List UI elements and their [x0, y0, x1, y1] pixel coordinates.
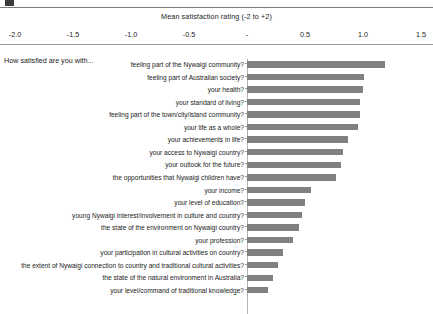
bar — [247, 174, 336, 180]
category-label: young Nywaigi interest/involvement in cu… — [72, 211, 244, 220]
chart-row: feeling part of the Nywaigi community? — [0, 59, 433, 71]
chart-row: your level of education? — [0, 197, 433, 209]
category-label: your level of education? — [174, 198, 244, 207]
bar — [247, 187, 311, 193]
chart-row: your life as a whole? — [0, 122, 433, 134]
bar — [247, 99, 360, 105]
chart-row: your standard of living? — [0, 97, 433, 109]
plot-area: feeling part of the Nywaigi community?fe… — [0, 45, 433, 314]
x-tick-label: -2.0 — [9, 30, 21, 39]
x-tick-label: - — [246, 30, 248, 39]
chart-row: the state of the natural environment in … — [0, 272, 433, 284]
bar — [247, 74, 364, 80]
page-corner-artifact — [5, 0, 14, 6]
chart-row: the opportunities that Nywaigi children … — [0, 172, 433, 184]
chart-row: your level/command of traditional knowle… — [0, 285, 433, 297]
category-label: your access to Nywaigi country? — [149, 148, 244, 157]
category-label: feeling part of the town/city/island com… — [109, 110, 244, 119]
category-label: your outlook for the future? — [165, 160, 244, 169]
chart-row: the extent of Nywaigi connection to coun… — [0, 260, 433, 272]
x-tick-label: 1.0 — [358, 30, 368, 39]
category-label: the state of the natural environment in … — [103, 273, 245, 282]
bar — [247, 111, 360, 117]
category-label: your level/command of traditional knowle… — [110, 286, 244, 295]
chart-row: your health? — [0, 84, 433, 96]
bar — [247, 162, 341, 168]
chart-row: young Nywaigi interest/involvement in cu… — [0, 210, 433, 222]
category-label: feeling part of Australian society? — [147, 73, 244, 82]
bar — [247, 149, 343, 155]
chart-row: your achievements in life? — [0, 134, 433, 146]
chart-row: feeling part of Australian society? — [0, 72, 433, 84]
bar — [247, 249, 283, 255]
category-label: your standard of living? — [176, 98, 244, 107]
chart-row: your profession? — [0, 235, 433, 247]
chart-row: the state of the environment on Nywaigi … — [0, 222, 433, 234]
category-label: your income? — [204, 186, 244, 195]
category-label: the state of the environment on Nywaigi … — [101, 223, 244, 232]
category-label: your achievements in life? — [168, 135, 244, 144]
chart-figure: Mean satisfaction rating (-2 to +2) -2.0… — [0, 0, 433, 314]
category-label: your life as a whole? — [184, 123, 244, 132]
bar — [247, 124, 358, 130]
bar — [247, 287, 268, 293]
chart-row: feeling part of the town/city/island com… — [0, 109, 433, 121]
bar — [247, 262, 278, 268]
bar — [247, 212, 302, 218]
bar — [247, 61, 385, 67]
chart-row: your income? — [0, 185, 433, 197]
top-divider — [0, 7, 433, 8]
bar — [247, 224, 299, 230]
bar — [247, 136, 348, 142]
x-axis-tick-labels: -2.0-1.5-1.0-0.5-0.51.01.5 — [0, 30, 433, 41]
bar — [247, 86, 363, 92]
x-tick-label: -0.5 — [183, 30, 195, 39]
category-label: your health? — [208, 85, 244, 94]
category-label: the extent of Nywaigi connection to coun… — [21, 261, 244, 270]
chart-row: your outlook for the future? — [0, 159, 433, 171]
category-label: the opportunities that Nywaigi children … — [113, 173, 244, 182]
bar — [247, 275, 273, 281]
x-tick-label: -1.5 — [67, 30, 79, 39]
category-label: your profession? — [195, 236, 244, 245]
x-tick-label: -1.0 — [125, 30, 137, 39]
category-label: your participation in cultural activitie… — [100, 248, 244, 257]
x-tick-label: 1.5 — [416, 30, 426, 39]
chart-row: your access to Nywaigi country? — [0, 147, 433, 159]
chart-row: your participation in cultural activitie… — [0, 247, 433, 259]
x-axis-title: Mean satisfaction rating (-2 to +2) — [0, 12, 433, 21]
bar — [247, 199, 305, 205]
x-tick-label: 0.5 — [300, 30, 310, 39]
bar — [247, 237, 293, 243]
category-label: feeling part of the Nywaigi community? — [131, 60, 244, 69]
